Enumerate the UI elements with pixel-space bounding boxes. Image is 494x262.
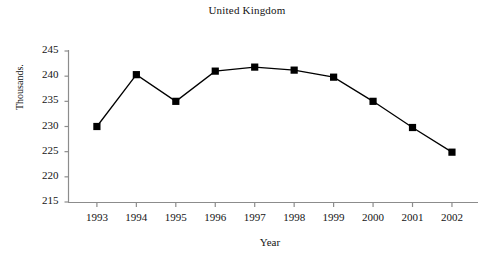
data-point-marker — [291, 67, 298, 74]
data-point-marker — [369, 98, 376, 105]
x-axis-tick-label: 2000 — [353, 211, 393, 223]
data-point-marker — [212, 68, 219, 75]
x-axis-tick-label: 1999 — [314, 211, 354, 223]
data-point-marker — [409, 124, 416, 131]
y-axis-tick-label: 245 — [27, 43, 59, 55]
y-axis-tick-label: 235 — [27, 93, 59, 105]
data-point-markers — [93, 64, 455, 156]
y-axis-tick-label: 240 — [27, 68, 59, 80]
y-axis-tick-label: 220 — [27, 169, 59, 181]
y-axis-tick-label: 215 — [27, 194, 59, 206]
data-series-line — [97, 67, 452, 152]
data-point-marker — [251, 64, 258, 71]
chart-container: United Kingdom Thousands. Year 215220225… — [0, 0, 494, 262]
data-point-marker — [133, 71, 140, 78]
x-axis-tick-label: 1996 — [195, 211, 235, 223]
x-axis-tick-label: 2002 — [432, 211, 472, 223]
x-axis-tick-label: 2001 — [393, 211, 433, 223]
axis-lines — [68, 50, 478, 203]
data-point-marker — [330, 74, 337, 81]
y-axis-tick-label: 230 — [27, 119, 59, 131]
x-axis-tick-label: 1997 — [235, 211, 275, 223]
x-axis-tick-label: 1995 — [156, 211, 196, 223]
y-axis-tick-label: 225 — [27, 144, 59, 156]
data-point-marker — [93, 123, 100, 130]
x-axis-tick-label: 1994 — [116, 211, 156, 223]
data-point-marker — [172, 98, 179, 105]
x-axis-tick-label: 1998 — [274, 211, 314, 223]
data-point-marker — [448, 149, 455, 156]
x-axis-tick-label: 1993 — [77, 211, 117, 223]
